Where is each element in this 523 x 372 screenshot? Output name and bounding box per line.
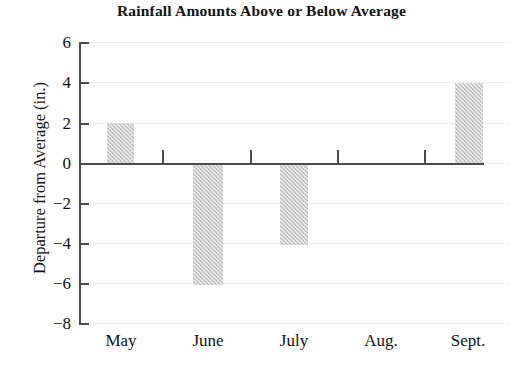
plot-area: 6 4 2 0 −2 −4 −6 −8: [79, 42, 510, 323]
y-tick-label-neg2: −2: [41, 195, 71, 212]
y-tick-neg6: [79, 283, 89, 285]
category-tick-1: [162, 150, 164, 163]
gridline-neg6: [79, 283, 510, 284]
bar-may: [107, 123, 134, 163]
y-tick-label-4: 4: [41, 74, 71, 91]
bar-june: [193, 165, 223, 285]
chart-figure: Rainfall Amounts Above or Below Average …: [0, 0, 523, 372]
bar-sept: [455, 83, 483, 163]
category-tick-2: [250, 150, 252, 163]
y-axis-spine: [79, 42, 81, 323]
y-tick-6: [79, 42, 89, 44]
y-tick-label-2: 2: [41, 115, 71, 132]
y-tick-label-neg4: −4: [41, 235, 71, 252]
chart-title: Rainfall Amounts Above or Below Average: [0, 2, 523, 20]
y-tick-label-neg8: −8: [41, 315, 71, 332]
y-tick-2: [79, 123, 89, 125]
category-tick-4: [424, 150, 426, 163]
gridline-neg8: [79, 323, 510, 324]
y-tick-neg4: [79, 243, 89, 245]
y-tick-4: [79, 82, 89, 84]
x-label-sept: Sept.: [413, 332, 523, 349]
y-tick-label-neg6: −6: [41, 275, 71, 292]
y-tick-neg2: [79, 203, 89, 205]
y-tick-neg8: [79, 323, 89, 325]
gridline-2: [79, 123, 510, 124]
y-tick-label-0: 0: [41, 155, 71, 172]
y-tick-label-6: 6: [41, 34, 71, 51]
gridline-6: [79, 42, 510, 43]
category-tick-3: [337, 150, 339, 163]
bar-july: [280, 165, 308, 245]
gridline-4: [79, 82, 510, 83]
